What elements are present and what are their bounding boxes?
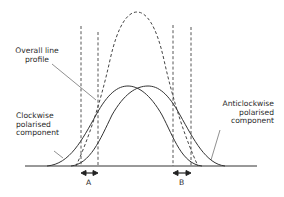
double-arrow-b xyxy=(173,171,191,176)
leader-anticlockwise xyxy=(211,130,220,160)
anticlockwise-component-curve xyxy=(71,86,225,166)
dashed-vertical-lines xyxy=(81,25,191,166)
overall-profile-curve xyxy=(76,12,198,166)
label-a: A xyxy=(86,179,91,188)
leader-clockwise xyxy=(54,151,63,158)
leader-overall xyxy=(52,64,96,100)
label-clockwise-component: Clockwise polarised component xyxy=(16,112,59,138)
label-overall-profile: Overall line profile xyxy=(12,47,62,64)
label-b: B xyxy=(179,179,184,188)
double-arrow-a xyxy=(81,171,98,176)
label-anticlockwise-component: Anticlockwise polarised component xyxy=(214,100,274,126)
